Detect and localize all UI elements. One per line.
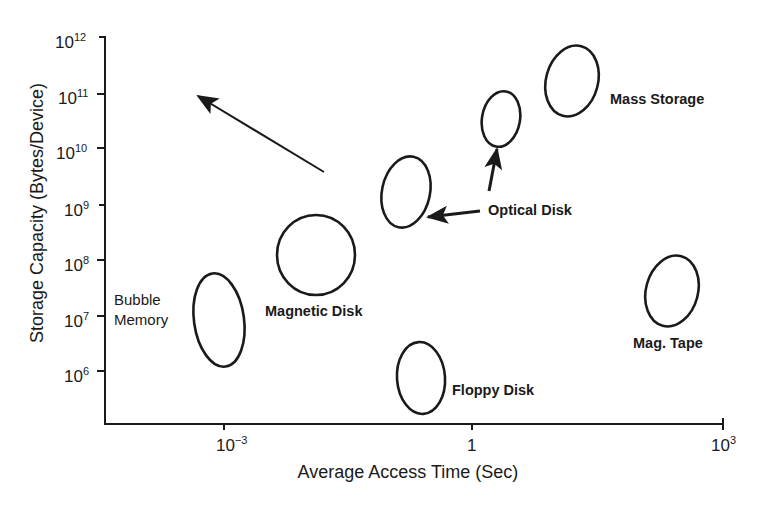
x-axis-title: Average Access Time (Sec)	[298, 462, 519, 482]
y-ticks	[97, 37, 105, 371]
y-tick-label-1e8: 108	[64, 254, 89, 275]
y-tick-label-1e10: 1010	[56, 142, 87, 163]
x-tick-label-1e3: 103	[711, 434, 736, 455]
optical-pointer-left-arrow	[428, 211, 480, 217]
label-bubble-memory-line2: Memory	[114, 311, 169, 328]
region-magnetic-disk	[277, 215, 355, 295]
region-mass-storage	[538, 39, 607, 122]
x-tick-labels: 10−3 1 103	[216, 434, 736, 455]
region-optical-disk-small	[477, 88, 524, 150]
label-mass-storage: Mass Storage	[610, 91, 704, 107]
y-axis-title: Storage Capacity (Bytes/Device)	[27, 83, 47, 343]
label-mag-tape: Mag. Tape	[633, 335, 703, 351]
region-mag-tape	[638, 249, 707, 332]
y-tick-label-1e11: 1011	[58, 87, 88, 108]
label-optical-disk: Optical Disk	[488, 202, 573, 218]
y-tick-label-1e7: 107	[64, 310, 89, 331]
y-tick-label-1e12: 1012	[55, 31, 86, 52]
label-floppy-disk: Floppy Disk	[452, 382, 535, 398]
y-tick-labels: 1012 1011 1010 109 108 107 106	[55, 31, 89, 386]
optical-pointer-up-arrow	[489, 149, 497, 191]
region-optical-disk-large	[375, 152, 437, 232]
optical-disk-pointers	[428, 149, 497, 217]
trend-arrow	[198, 96, 324, 172]
x-tick-label-1: 1	[467, 436, 476, 455]
region-floppy-disk	[395, 340, 448, 415]
storage-chart: 1012 1011 1010 109 108 107 106 10−3 1 10…	[0, 0, 762, 508]
region-bubble-memory	[188, 270, 251, 370]
y-tick-label-1e6: 106	[64, 365, 89, 386]
y-tick-label-1e9: 109	[64, 199, 89, 220]
label-magnetic-disk: Magnetic Disk	[265, 303, 363, 319]
x-tick-label-1e-3: 10−3	[216, 434, 247, 455]
label-bubble-memory-line1: Bubble	[114, 291, 161, 308]
